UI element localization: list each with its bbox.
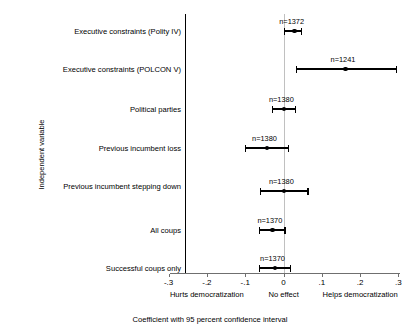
estimate-point	[273, 266, 278, 271]
confidence-interval-cap-high	[396, 66, 397, 73]
x-axis-tick-label: 0	[269, 278, 299, 287]
estimate-point	[282, 107, 287, 112]
confidence-interval-cap-low	[259, 265, 260, 272]
x-axis-tick-label: -.2	[192, 278, 222, 287]
confidence-interval-cap-low	[245, 145, 246, 152]
plot-area: -.3-.2-.10.1.2.3Executive constraints (P…	[0, 0, 420, 336]
sample-size-label: n=1370	[260, 254, 285, 263]
x-axis-tick	[360, 274, 361, 277]
x-axis-annotation: Helps democratization	[323, 290, 398, 299]
category-label: Political parties	[3, 105, 181, 115]
x-axis-annotation: No effect	[269, 290, 299, 299]
category-label: Executive constraints (POLCON V)	[3, 65, 181, 75]
x-axis-annotation: Hurts democratization	[170, 290, 244, 299]
category-label: Successful coups only	[3, 264, 181, 274]
category-label: Executive constraints (Polity IV)	[3, 27, 181, 37]
confidence-interval-cap-high	[307, 188, 308, 195]
x-axis-tick-label: .2	[345, 278, 375, 287]
sample-size-label: n=1372	[279, 17, 304, 26]
confidence-interval-cap-low	[272, 106, 273, 113]
category-axis-line	[185, 14, 186, 273]
x-axis-tick	[207, 274, 208, 277]
confidence-interval-cap-high	[290, 265, 291, 272]
estimate-point	[265, 146, 270, 151]
confidence-interval-cap-high	[295, 106, 296, 113]
x-axis-tick	[169, 274, 170, 277]
sample-size-label: n=1380	[252, 134, 277, 143]
estimate-point	[292, 29, 297, 34]
confidence-interval-cap-high	[301, 28, 302, 35]
x-axis-tick	[398, 274, 399, 277]
x-axis-tick-label: -.3	[154, 278, 184, 287]
x-axis-tick-label: -.1	[230, 278, 260, 287]
x-axis-tick	[322, 274, 323, 277]
estimate-point	[282, 189, 287, 194]
sample-size-label: n=1241	[331, 55, 356, 64]
sample-size-label: n=1370	[257, 216, 282, 225]
x-axis-tick-label: .3	[383, 278, 413, 287]
x-axis-line	[170, 273, 400, 274]
sample-size-label: n=1380	[269, 95, 294, 104]
category-label: Previous incumbent stepping down	[3, 182, 181, 192]
confidence-interval-cap-low	[259, 227, 260, 234]
confidence-interval-cap-low	[296, 66, 297, 73]
estimate-point	[343, 67, 348, 72]
estimate-point	[270, 228, 275, 233]
category-label: Previous incumbent loss	[3, 144, 181, 154]
coefficient-plot: Independent variable -.3-.2-.10.1.2.3Exe…	[0, 0, 420, 336]
confidence-interval-cap-low	[284, 28, 285, 35]
x-axis-tick-label: .1	[307, 278, 337, 287]
x-axis-tick	[284, 274, 285, 277]
confidence-interval-cap-low	[260, 188, 261, 195]
confidence-interval-cap-high	[284, 227, 285, 234]
confidence-interval-cap-high	[288, 145, 289, 152]
zero-reference-line	[284, 14, 285, 273]
category-label: All coups	[3, 226, 181, 236]
x-axis-tick	[245, 274, 246, 277]
sample-size-label: n=1380	[269, 177, 294, 186]
x-axis-title: Coefficient with 95 percent confidence i…	[0, 315, 420, 324]
